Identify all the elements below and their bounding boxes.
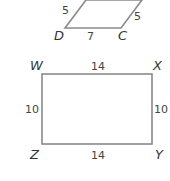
- vertex-label-d: D: [54, 28, 64, 43]
- parallelogram: 5 5 7 D C: [54, 0, 142, 43]
- vertex-label-z: Z: [29, 147, 40, 162]
- vertex-label-c: C: [118, 28, 128, 43]
- vertex-label-y: Y: [155, 147, 164, 162]
- rectangle: W X Y Z 14 14 10 10: [25, 58, 168, 162]
- parallelogram-shape: [65, 0, 142, 28]
- vertex-label-x: X: [152, 58, 163, 73]
- parallelogram-left-side-label: 5: [62, 4, 69, 17]
- rectangle-top-side-label: 14: [91, 60, 105, 73]
- rectangle-bottom-side-label: 14: [91, 149, 105, 162]
- rectangle-right-side-label: 10: [154, 103, 168, 116]
- diagram-canvas: 5 5 7 D C W X Y Z 14 14 10 10: [0, 0, 170, 181]
- rectangle-shape: [42, 74, 152, 144]
- vertex-label-w: W: [30, 58, 44, 73]
- rectangle-left-side-label: 10: [25, 103, 39, 116]
- parallelogram-right-side-label: 5: [134, 10, 141, 23]
- parallelogram-bottom-side-label: 7: [87, 30, 94, 43]
